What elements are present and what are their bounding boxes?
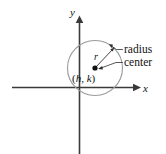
center-callout-label: center [124, 56, 152, 68]
x-axis-label: x [142, 82, 148, 94]
y-axis-label: y [69, 6, 75, 18]
y-axis-arrowhead [76, 16, 84, 24]
diagram-canvas: y x r (h, k) radius center [0, 0, 166, 154]
radius-symbol-label: r [94, 51, 98, 62]
x-axis-arrowhead [133, 84, 141, 92]
circle-diagram-figure: y x r (h, k) radius center [0, 0, 166, 154]
center-leader-arrowhead [98, 66, 103, 70]
circle-center-dot [92, 65, 97, 70]
center-leader-line [101, 63, 123, 69]
center-coordinates-label: (h, k) [72, 72, 96, 85]
radius-callout-label: radius [124, 43, 153, 55]
